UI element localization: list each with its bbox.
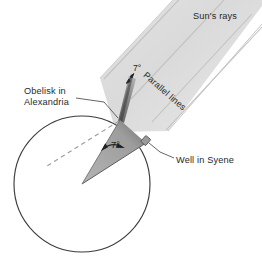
diagram-canvas (0, 0, 262, 265)
leader-line-well (149, 143, 174, 158)
eratosthenes-diagram: Sun's rays Parallel lines Obelisk inAlex… (0, 0, 262, 265)
